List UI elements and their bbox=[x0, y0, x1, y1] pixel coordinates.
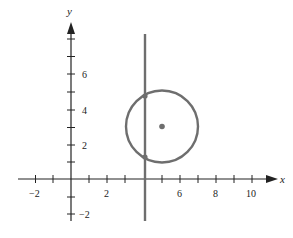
y-axis-arrow-icon bbox=[67, 22, 75, 34]
x-tick-label: −2 bbox=[29, 188, 40, 199]
y-tick-label: 2 bbox=[82, 140, 87, 151]
intersection-point-upper bbox=[142, 93, 147, 98]
x-tick-label: 6 bbox=[177, 188, 182, 199]
x-axis-label: x bbox=[279, 173, 285, 185]
x-tick-label: 8 bbox=[213, 188, 218, 199]
y-tick-label: 4 bbox=[82, 105, 87, 116]
chart: x y −2 2 6 8 10 6 4 2 −2 bbox=[0, 0, 293, 238]
x-axis-arrow-icon bbox=[266, 175, 278, 183]
y-axis-label: y bbox=[66, 5, 72, 17]
x-tick-label: 2 bbox=[104, 188, 109, 199]
circle-center-point bbox=[159, 124, 165, 130]
intersection-point-lower bbox=[142, 154, 147, 159]
x-tick-label: 10 bbox=[246, 188, 256, 199]
y-tick-label: −2 bbox=[79, 209, 90, 220]
y-tick-label: 6 bbox=[82, 69, 87, 80]
